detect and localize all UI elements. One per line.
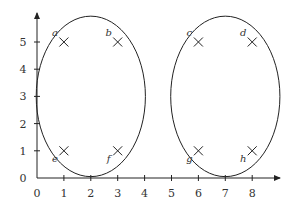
x-tick-label: 6 [195,187,202,200]
cross-marker-icon [113,38,122,47]
point-label: h [240,153,246,164]
x-tick-label: 4 [141,187,148,200]
cross-marker-icon [248,146,257,155]
y-tick-label: 0 [20,172,27,185]
y-tick-label: 1 [20,145,27,158]
x-axis-ticks: 012345678 [34,175,256,200]
point-d: d [240,27,257,47]
point-label: c [187,27,193,38]
point-e: e [52,146,68,164]
cross-marker-icon [194,38,203,47]
x-tick-label: 7 [222,187,229,200]
cross-marker-icon [59,146,68,155]
x-tick-label: 0 [34,187,41,200]
point-h: h [240,146,257,164]
cluster-diagram: 012345678 012345 abcdefgh [0,0,294,208]
point-label: d [240,27,246,38]
point-label: e [52,153,58,164]
y-tick-label: 3 [20,90,27,103]
x-tick-label: 3 [114,187,121,200]
x-tick-label: 5 [168,187,175,200]
y-tick-label: 4 [20,63,27,76]
y-tick-label: 5 [20,36,27,49]
point-label: a [52,27,58,38]
point-f: f [106,146,122,164]
cross-marker-icon [248,38,257,47]
cross-marker-icon [59,38,68,47]
point-label: f [106,153,113,164]
cross-marker-icon [113,146,122,155]
point-label: g [186,153,192,164]
point-g: g [186,146,203,164]
point-b: b [105,27,122,47]
x-tick-label: 1 [60,187,67,200]
cross-marker-icon [194,146,203,155]
x-tick-label: 2 [87,187,94,200]
point-label: b [105,27,111,38]
x-tick-label: 8 [249,187,256,200]
y-tick-label: 2 [20,118,27,131]
data-points: abcdefgh [52,27,257,164]
